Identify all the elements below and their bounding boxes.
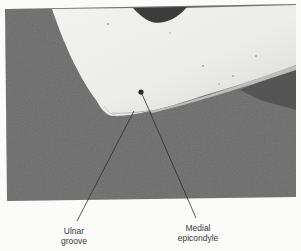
medial-epicondyle-label-line1: Medial [172,223,224,233]
ulnar-groove-label-line2: groove [58,236,90,246]
ulnar-groove-label-line1: Ulnar [58,226,90,236]
elbow-photograph [0,0,301,251]
medial-epicondyle-label: Medial epicondyle [172,223,224,243]
medial-epicondyle-label-line2: epicondyle [172,233,224,243]
medial-epicondyle-marker [138,89,143,94]
ulnar-groove-label: Ulnar groove [58,226,90,246]
elbow-figure: Ulnar groove Medial epicondyle [0,0,301,251]
